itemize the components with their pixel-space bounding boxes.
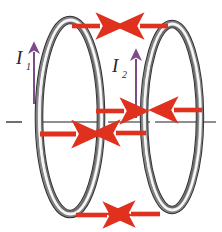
- current-2-subscript: 2: [122, 69, 127, 80]
- current-2-symbol: I: [111, 55, 120, 76]
- current-direction-arrows: [34, 52, 136, 118]
- right-loop-specular: [144, 24, 201, 210]
- force-arrows: [40, 26, 202, 215]
- left-loop-inner-shadow: [42, 23, 98, 212]
- diagram-canvas: I 1 I 2: [0, 0, 222, 232]
- physics-diagram-two-current-loops: I 1 I 2: [0, 0, 222, 232]
- current-labels: I 1 I 2: [15, 47, 127, 80]
- current-1-subscript: 1: [26, 61, 31, 72]
- right-current-loop: [141, 21, 202, 212]
- right-loop-outer-shadow: [141, 21, 202, 212]
- left-loop-specular: [39, 20, 102, 214]
- left-loop-outer-shadow: [36, 17, 104, 216]
- right-loop-inner-shadow: [147, 27, 198, 208]
- left-current-loop: [36, 17, 104, 216]
- current-1-symbol: I: [15, 47, 24, 68]
